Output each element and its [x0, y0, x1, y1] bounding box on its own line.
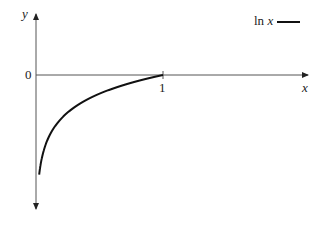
plot [0, 0, 324, 225]
legend-label: ln x [254, 13, 273, 29]
tick-one-label: 1 [159, 80, 166, 96]
x-axis-label: x [302, 80, 308, 96]
origin-label: 0 [25, 67, 32, 83]
ln-curve [39, 75, 163, 175]
y-axis-label: y [22, 6, 28, 22]
